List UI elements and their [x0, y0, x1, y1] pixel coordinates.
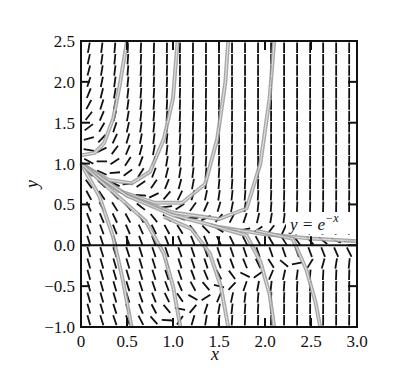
slope-dash	[245, 304, 246, 314]
slope-dash	[349, 258, 350, 268]
slope-dash	[283, 213, 284, 223]
slope-dash	[230, 236, 234, 245]
slope-dash	[178, 258, 181, 268]
slope-dash	[283, 270, 285, 280]
slope-dash	[124, 170, 132, 176]
slope-dash	[113, 270, 116, 280]
slope-dash	[87, 258, 90, 268]
slope-dash	[284, 281, 285, 291]
slope-dash	[152, 293, 156, 303]
slope-dash	[334, 247, 338, 257]
slope-dash	[139, 270, 142, 280]
slope-dash	[269, 247, 272, 257]
x-axis-label: x	[210, 344, 219, 364]
slope-dash	[100, 213, 104, 223]
slope-dash	[166, 168, 169, 178]
slope-dash	[202, 295, 211, 301]
slope-dash	[178, 247, 181, 257]
slope-dash	[140, 88, 141, 98]
slope-dash	[245, 190, 246, 200]
slope-dash	[217, 247, 220, 257]
slope-dash	[154, 88, 155, 98]
slope-dash	[191, 247, 194, 257]
slope-dash	[153, 111, 154, 121]
slope-dash	[257, 281, 259, 291]
slope-dash	[152, 247, 155, 257]
x-tick-label: 2.5	[300, 332, 321, 351]
slope-dash	[86, 191, 91, 200]
slope-dash	[88, 65, 91, 75]
slope-dash	[100, 304, 103, 314]
y-tick-label: 2.5	[54, 32, 75, 51]
slope-dash	[231, 202, 233, 212]
slope-dash	[218, 304, 220, 314]
slope-dash	[139, 293, 142, 303]
slope-dash	[114, 77, 115, 87]
slope-dash	[113, 281, 116, 291]
slope-dash	[114, 54, 115, 64]
y-tick-label: 0.0	[54, 236, 75, 255]
slope-dash	[178, 270, 181, 280]
curve-annotation: y = e−x	[286, 211, 354, 234]
slope-dash	[178, 191, 183, 200]
slope-dash	[112, 146, 118, 154]
slope-dash	[219, 167, 220, 177]
slope-dash	[151, 180, 157, 189]
slope-dash	[270, 281, 271, 291]
slope-dash	[217, 259, 220, 269]
slope-dash	[308, 247, 312, 257]
slope-dash	[257, 213, 259, 223]
slope-dash	[100, 236, 103, 246]
slope-dash	[140, 133, 142, 143]
slope-dash	[179, 156, 180, 166]
slope-dash	[204, 270, 208, 280]
slope-dash	[192, 179, 194, 189]
slope-dash	[152, 281, 155, 291]
slope-dash	[231, 190, 232, 200]
slope-dash	[126, 281, 129, 291]
slope-dash	[203, 282, 210, 290]
slope-dash	[85, 124, 93, 130]
slope-dash	[188, 295, 197, 300]
x-tick-label: 1.0	[162, 332, 183, 351]
slope-dash	[254, 272, 263, 278]
slope-dash	[100, 270, 103, 280]
slope-dash	[113, 122, 116, 132]
slope-dash	[141, 77, 142, 87]
slope-dash	[101, 77, 103, 87]
slope-dash	[191, 259, 194, 269]
slope-dash	[100, 225, 104, 235]
slope-dash	[100, 100, 103, 110]
slope-dash	[271, 202, 272, 212]
slope-dash	[231, 304, 232, 314]
slope-dash	[218, 202, 221, 212]
slope-dash	[258, 190, 259, 200]
slope-dash	[111, 158, 120, 164]
slope-dash	[87, 202, 91, 212]
slope-dash	[152, 304, 157, 313]
slope-dash	[193, 145, 194, 155]
slope-dash	[153, 133, 154, 143]
slope-dash	[87, 292, 90, 302]
slope-dash	[191, 236, 195, 246]
slope-dash	[243, 281, 246, 291]
y-tick-label: −0.5	[44, 277, 75, 296]
slope-dash	[232, 179, 233, 189]
y-axis-label: y	[22, 180, 42, 190]
slope-dash	[166, 156, 168, 166]
slope-dash	[244, 292, 245, 302]
slope-dash	[165, 281, 169, 291]
slope-dash	[270, 213, 272, 223]
slope-dash	[88, 43, 90, 53]
y-tick-label: 2.0	[54, 73, 75, 92]
slope-dash	[240, 272, 249, 277]
slope-dash	[202, 226, 209, 233]
y-tick-label: −1.0	[44, 318, 75, 337]
slope-dash	[243, 259, 247, 269]
y-tick-label: 1.5	[54, 114, 75, 133]
slope-dash	[192, 315, 195, 325]
annotation-superscript: −x	[325, 211, 339, 225]
slope-dash	[166, 145, 167, 155]
slope-dash	[180, 133, 181, 143]
slope-dash	[125, 213, 130, 222]
